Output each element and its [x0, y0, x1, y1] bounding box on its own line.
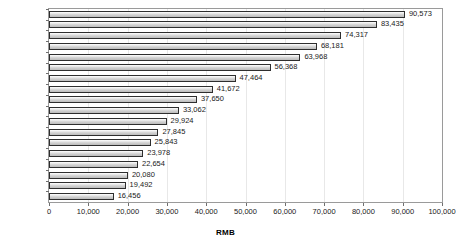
bar-value-label: 47,464	[240, 73, 263, 83]
category-tick	[46, 9, 49, 10]
bar-row: 33,0622007	[49, 106, 442, 116]
bar-row: 41,6722009	[49, 84, 442, 94]
bar[interactable]	[49, 21, 377, 28]
value-tick-label: 20,000	[116, 207, 139, 216]
category-tick	[46, 148, 49, 149]
bar-value-label: 33,062	[183, 105, 206, 115]
value-tick-label: 100,000	[428, 207, 455, 216]
category-tick	[46, 30, 49, 31]
value-tick-label: 90,000	[391, 207, 414, 216]
category-tick	[46, 84, 49, 85]
bar[interactable]	[49, 96, 197, 103]
bar-value-label: 25,843	[155, 137, 178, 147]
bar[interactable]	[49, 139, 151, 146]
bar[interactable]	[49, 118, 167, 125]
bar-value-label: 16,456	[118, 191, 141, 201]
bar-row: 22,6542002	[49, 159, 442, 169]
value-tick	[206, 203, 207, 206]
value-tick-label: 50,000	[234, 207, 257, 216]
bar[interactable]	[49, 193, 114, 200]
bar-value-label: 63,968	[304, 52, 327, 62]
category-tick	[46, 191, 49, 192]
bar[interactable]	[49, 54, 300, 61]
value-tick	[128, 203, 129, 206]
bar-row: 90,5732016	[49, 9, 442, 19]
category-tick	[46, 127, 49, 128]
bar-row: 68,1812013	[49, 41, 442, 51]
bar-row: 19,4922000	[49, 181, 442, 191]
bar-row: 27,8452005	[49, 127, 442, 137]
value-tick-label: 60,000	[273, 207, 296, 216]
bar-row: 20,0802001	[49, 170, 442, 180]
value-axis: 010,00020,00030,00040,00050,00060,00070,…	[48, 203, 443, 223]
value-tick-label: 10,000	[77, 207, 100, 216]
bar[interactable]	[49, 43, 317, 50]
axis-title-label: RMB	[216, 228, 235, 237]
bar[interactable]	[49, 182, 126, 189]
bar[interactable]	[49, 32, 341, 39]
bar-row: 23,9782003	[49, 149, 442, 159]
category-tick	[46, 159, 49, 160]
plot-area: 90,573201683,435201574,317201468,1812013…	[48, 8, 443, 203]
category-tick	[46, 95, 49, 96]
value-tick	[403, 203, 404, 206]
bar-chart: 90,573201683,435201574,317201468,1812013…	[0, 0, 469, 250]
bar-value-label: 20,080	[132, 170, 155, 180]
bar-value-label: 90,573	[409, 9, 432, 19]
bar-row: 83,4352015	[49, 20, 442, 30]
category-tick	[46, 52, 49, 53]
value-tick	[285, 203, 286, 206]
bar[interactable]	[49, 64, 271, 71]
bar-value-label: 29,924	[171, 116, 194, 126]
value-tick	[442, 203, 443, 206]
category-tick	[46, 181, 49, 182]
bar[interactable]	[49, 86, 213, 93]
bar-row: 16,4561999	[49, 191, 442, 201]
value-tick	[363, 203, 364, 206]
bar-value-label: 74,317	[345, 30, 368, 40]
bar-value-label: 83,435	[381, 19, 404, 29]
bar-value-label: 23,978	[147, 148, 170, 158]
bar-row: 25,8432004	[49, 138, 442, 148]
bar[interactable]	[49, 11, 405, 18]
bar-row: 74,3172014	[49, 31, 442, 41]
axis-title: RMB	[0, 228, 469, 237]
bar[interactable]	[49, 75, 236, 82]
value-tick-label: 70,000	[313, 207, 336, 216]
bar[interactable]	[49, 129, 158, 136]
value-tick	[49, 203, 50, 206]
bar-value-label: 37,650	[201, 94, 224, 104]
value-tick-label: 80,000	[352, 207, 375, 216]
bar-row: 37,6502008	[49, 95, 442, 105]
category-tick	[46, 138, 49, 139]
category-tick	[46, 106, 49, 107]
bar[interactable]	[49, 150, 143, 157]
bar-row: 29,9242006	[49, 116, 442, 126]
value-tick	[246, 203, 247, 206]
bar[interactable]	[49, 107, 179, 114]
bar[interactable]	[49, 172, 128, 179]
value-tick	[167, 203, 168, 206]
value-tick-label: 30,000	[155, 207, 178, 216]
bar-value-label: 19,492	[130, 180, 153, 190]
bar-value-label: 56,368	[275, 62, 298, 72]
category-tick	[46, 63, 49, 64]
category-tick	[46, 73, 49, 74]
bar-value-label: 22,654	[142, 159, 165, 169]
category-tick	[46, 20, 49, 21]
bar[interactable]	[49, 161, 138, 168]
value-tick-label: 40,000	[195, 207, 218, 216]
value-tick	[88, 203, 89, 206]
bar-value-label: 68,181	[321, 41, 344, 51]
category-tick	[46, 41, 49, 42]
bar-row: 63,9682012	[49, 52, 442, 62]
value-tick-label: 0	[47, 207, 51, 216]
category-tick	[46, 116, 49, 117]
category-tick	[46, 170, 49, 171]
bar-value-label: 27,845	[162, 127, 185, 137]
bar-row: 47,4642010	[49, 74, 442, 84]
bar-row: 56,3682011	[49, 63, 442, 73]
value-tick	[324, 203, 325, 206]
bar-value-label: 41,672	[217, 84, 240, 94]
